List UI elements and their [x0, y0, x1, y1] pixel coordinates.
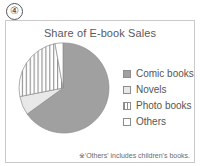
legend-item-comic-books: Comic books	[123, 67, 199, 80]
legend-item-others: Others	[123, 115, 199, 128]
striped-swatch-icon	[123, 102, 131, 110]
light-gray-swatch-icon	[123, 86, 131, 94]
legend-item-label: Others	[136, 116, 166, 127]
legend-item-novels: Novels	[123, 83, 199, 96]
chart-footnote: ※'Others' includes children's books.	[79, 152, 190, 160]
question-number-marker: ④	[6, 3, 23, 20]
legend-item-photo-books: Photo books	[123, 99, 199, 112]
legend-item-label: Photo books	[136, 100, 192, 111]
legend-item-label: Novels	[136, 84, 167, 95]
pie-chart-svg	[14, 39, 112, 137]
figure-frame: Share of E-book Sales Comic books	[5, 20, 195, 163]
white-swatch-icon	[123, 118, 131, 126]
legend-item-label: Comic books	[136, 68, 194, 79]
solid-gray-swatch-icon	[123, 70, 131, 78]
chart-title: Share of E-book Sales	[6, 27, 194, 39]
pie-chart	[14, 39, 112, 137]
chart-legend: Comic books Novels Photo books Others	[123, 67, 199, 131]
